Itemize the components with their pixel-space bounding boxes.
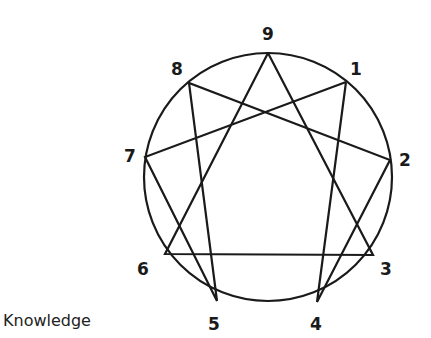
point-label-6: 6 [137,259,149,279]
point-label-2: 2 [399,150,411,170]
hexad-1-4-2-8-5-7 [145,82,390,302]
point-label-7: 7 [124,146,136,166]
enneagram-diagram: 912345678 Knowledge [0,0,431,338]
point-label-8: 8 [171,59,183,79]
point-label-5: 5 [208,314,220,334]
caption-knowledge: Knowledge [3,311,91,330]
point-label-4: 4 [310,314,322,334]
enneagram-circle [144,53,392,301]
point-labels: 912345678 [124,24,411,334]
point-label-3: 3 [380,259,392,279]
point-label-9: 9 [262,24,274,44]
point-label-1: 1 [350,59,362,79]
